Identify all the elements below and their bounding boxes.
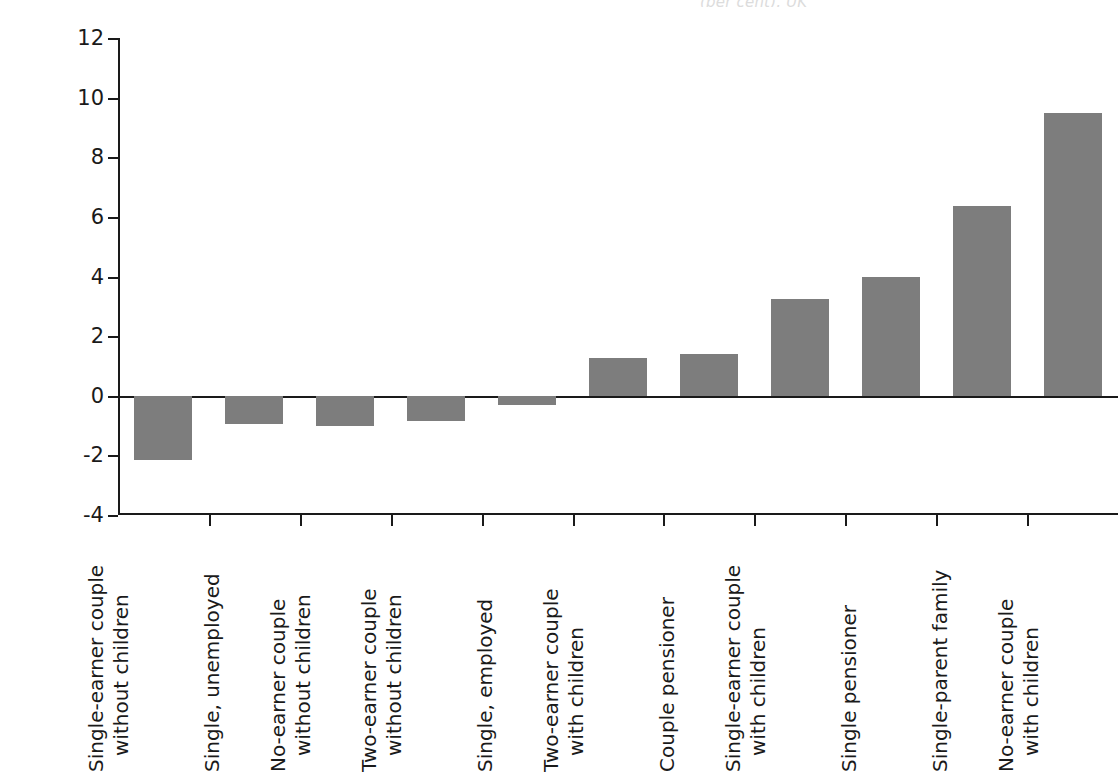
bar-chart: (per cent), UK % change in post-tax inco… [0,0,1119,772]
bar [316,396,374,426]
x-tick-mark [300,515,302,526]
bar [407,396,465,421]
y-tick-label: -2 [83,445,104,466]
y-tick-label: 2 [91,326,104,347]
x-axis-label-line: Two-earner couple [357,588,382,772]
y-tick-label: 0 [91,385,104,406]
x-axis-label: No-earner couplewith children [1044,528,1102,772]
y-tick-label: 6 [91,206,104,227]
bar [498,396,556,405]
x-tick-mark [936,515,938,526]
bar [225,396,283,424]
x-axis-label-line: Single-earner couple [84,565,109,772]
y-tick-mark [108,157,118,159]
y-tick-mark [108,455,118,457]
x-axis-label-line: No-earner couple [266,599,291,772]
x-axis-label-line: Couple pensioner [655,597,680,772]
x-axis-label-line: No-earner couple [994,599,1019,772]
x-axis-label-line: Single-parent family [928,570,953,772]
y-tick-mark [108,396,118,398]
x-tick-mark [482,515,484,526]
y-tick-label: 4 [91,266,104,287]
bar [953,206,1011,395]
y-tick-mark [108,277,118,279]
bar [589,358,647,395]
x-axis-label-line: with children [564,627,589,772]
x-axis-label-line: Two-earner couple [539,588,564,772]
y-tick-mark [108,98,118,100]
x-tick-mark [845,515,847,526]
x-tick-mark [754,515,756,526]
x-axis-label-line: Single, unemployed [200,573,225,772]
bar [862,277,920,396]
y-tick-label: 8 [91,147,104,168]
y-tick-label: 12 [77,28,104,49]
x-axis-label-line: with children [746,627,771,772]
x-axis-label-line: with children [1019,627,1044,772]
x-tick-mark [209,515,211,526]
x-tick-mark [663,515,665,526]
y-tick-label: 10 [77,87,104,108]
y-tick-label: -4 [83,505,104,526]
x-axis-label-line: Single pensioner [837,605,862,772]
x-tick-mark [391,515,393,526]
x-axis-label-line: Single-earner couple [721,565,746,772]
bar [1044,113,1102,396]
y-tick-mark [108,217,118,219]
y-tick-mark [108,336,118,338]
clipped-header-fragment: (per cent), UK [700,0,1119,7]
bar [680,354,738,396]
bar [134,396,192,460]
plot-area: -4-2024681012 [118,38,1118,515]
bars-group [118,38,1118,515]
x-axis-label-line: without children [109,594,134,772]
x-axis-label-line: without children [382,594,407,772]
x-tick-mark [573,515,575,526]
x-axis-label-line: Single, employed [473,599,498,772]
y-tick-mark [108,515,118,517]
x-axis-labels: Single-earner couplewithout childrenSing… [118,528,1118,772]
bar [771,299,829,396]
x-axis-label-line: without children [291,594,316,772]
y-tick-mark [108,38,118,40]
x-tick-mark [1027,515,1029,526]
